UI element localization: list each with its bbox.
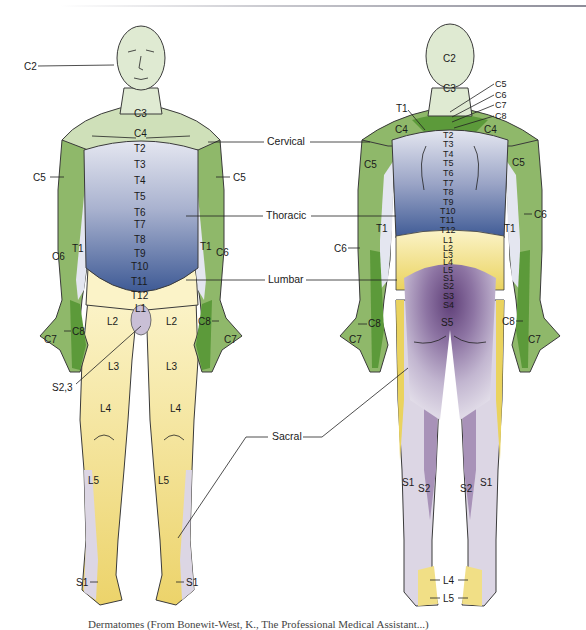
back-figure [340,24,560,606]
region-label-thoracic: Thoracic [266,209,306,221]
label-front-s1-right: S1 [186,577,199,588]
label-back-t1-right: T1 [504,223,516,234]
label-front-l2-left: L2 [107,316,119,327]
label-front-l5-left: L5 [88,475,100,486]
label-front-t5: T5 [134,191,146,202]
label-front-l5-right: L5 [158,475,170,486]
label-front-c7-right: C7 [224,334,237,345]
label-back-t5: T5 [443,158,454,168]
label-front-t7: T7 [134,219,146,230]
label-back-l5-foot: L5 [443,593,455,604]
label-back-c6-left: C6 [334,243,347,254]
label-back-s4: S4 [443,300,454,310]
label-back-s5: S5 [441,317,454,328]
label-front-l4-left: L4 [100,403,112,414]
region-label-sacral: Sacral [272,430,302,442]
label-front-c5-right: C5 [233,172,246,183]
label-front-t4: T4 [134,175,146,186]
figure-caption: Dermatomes (From Bonewit-West, K., The P… [88,618,508,630]
label-front-t3: T3 [134,159,146,170]
label-front-l3-right: L3 [166,361,178,372]
label-front-l2-right: L2 [166,316,178,327]
label-front-s23: S2,3 [52,382,73,393]
label-front-l3-left: L3 [108,361,120,372]
label-front-t1-right: T1 [200,241,212,252]
label-front-c3: C3 [134,108,147,119]
label-front-c2: C2 [24,61,37,72]
label-back-c5-left: C5 [364,159,377,170]
label-back-c8: C8 [495,111,507,121]
back-right-foot-l [462,566,482,606]
label-front-s1-left: S1 [76,577,89,588]
label-front-t11: T11 [131,276,148,287]
label-back-s2-left: S2 [418,483,431,494]
label-back-c8-right: C8 [502,316,515,327]
label-front-c4: C4 [134,128,147,139]
label-front-l4-right: L4 [170,403,182,414]
region-label-lumbar: Lumbar [268,273,304,285]
label-back-t12: T12 [440,225,456,235]
region-label-cervical: Cervical [267,135,305,147]
label-back-s2: S2 [443,281,454,291]
label-front-t10: T10 [131,261,149,272]
label-back-c7: C7 [495,100,507,110]
label-back-s1-left: S1 [402,477,415,488]
label-back-c4-right: C4 [484,124,497,135]
label-back-c5: C5 [495,79,507,89]
label-front-c6-right: C6 [216,247,229,258]
label-front-t6: T6 [134,207,146,218]
label-front-c6-left: C6 [52,251,65,262]
label-front-l1: L1 [135,303,147,314]
label-back-t3: T3 [443,139,454,149]
label-back-c4-left: C4 [395,124,408,135]
label-back-t1-top: T1 [396,103,408,114]
label-back-c8-left: C8 [368,318,381,329]
label-back-c6-right: C6 [534,209,547,220]
label-back-s2-right: S2 [460,483,473,494]
label-front-c8-left: C8 [72,326,85,337]
label-front-t12: T12 [131,290,149,301]
label-back-t6: T6 [443,168,454,178]
label-front-t8: T8 [134,234,146,245]
label-back-c7-right: C7 [528,334,541,345]
label-back-c7-left: C7 [349,334,362,345]
label-back-t11: T11 [440,215,455,225]
label-front-c5-left: C5 [33,172,46,183]
label-back-c3: C3 [443,83,456,94]
label-back-s1-right: S1 [480,477,493,488]
label-back-c5-right: C5 [512,157,525,168]
label-back-c6: C6 [495,90,507,100]
label-front-t2: T2 [134,143,146,154]
back-left-foot-l [418,566,438,606]
label-front-t9: T9 [134,248,146,259]
label-back-t8: T8 [443,187,454,197]
label-back-c2: C2 [443,53,456,64]
label-back-t1-left: T1 [376,223,388,234]
label-front-c7-left: C7 [44,334,57,345]
label-front-c8-right: C8 [198,316,211,327]
label-back-l4: L4 [443,575,455,586]
label-front-t1-left: T1 [72,243,84,254]
